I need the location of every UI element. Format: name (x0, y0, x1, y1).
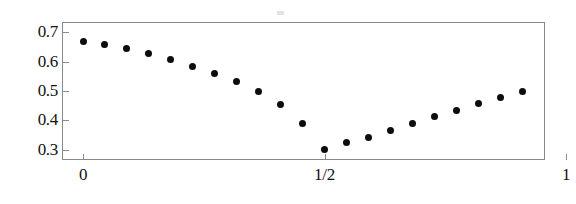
data-point (189, 63, 196, 70)
y-axis-tick-label: 0.5 (6, 82, 58, 99)
data-point (365, 134, 372, 141)
data-point (519, 88, 526, 95)
y-axis-tick (63, 120, 69, 121)
data-point (145, 50, 152, 57)
y-axis-tick-label: 0.7 (6, 23, 58, 40)
data-point (453, 107, 460, 114)
x-axis-tick (566, 154, 567, 160)
x-axis-tick-label: 1/2 (300, 166, 350, 183)
y-axis-tick (63, 32, 69, 33)
y-axis-tick-label: 0.3 (6, 141, 58, 158)
data-point (80, 38, 87, 45)
data-point (431, 113, 438, 120)
y-axis-tick (63, 62, 69, 63)
scan-artifact-mark (277, 11, 284, 15)
x-axis-tick (83, 154, 84, 160)
data-point (299, 120, 306, 127)
x-axis-tick-label: 0 (58, 166, 108, 183)
data-point (475, 100, 482, 107)
data-point (101, 41, 108, 48)
data-point (277, 101, 284, 108)
y-axis-tick-label: 0.4 (6, 111, 58, 128)
data-point (211, 70, 218, 77)
data-point (409, 120, 416, 127)
data-point (123, 45, 130, 52)
x-axis-tick (325, 154, 326, 160)
data-point (497, 94, 504, 101)
x-axis-tick-label: 1 (541, 166, 576, 183)
data-point (387, 127, 394, 134)
y-axis-tick-labels: 0.70.60.50.40.3 (0, 0, 58, 204)
y-axis-tick (63, 91, 69, 92)
y-axis-tick-label: 0.6 (6, 53, 58, 70)
y-axis-tick (63, 150, 69, 151)
plot-frame (62, 22, 545, 160)
data-point (255, 88, 262, 95)
data-point (343, 139, 350, 146)
data-point (167, 56, 174, 63)
data-point (233, 78, 240, 85)
data-point (321, 146, 328, 153)
scatter-plot-figure: 0.70.60.50.40.3 01/21 (0, 0, 576, 204)
